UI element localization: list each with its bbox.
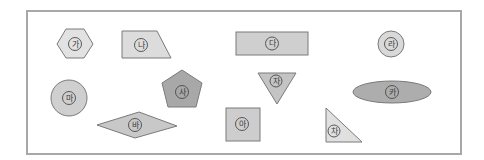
- shape-hexagon-ga: 가: [57, 29, 93, 58]
- shape-label: 마: [66, 94, 74, 103]
- shape-ellipse-ka: 카: [353, 81, 431, 103]
- shape-trapezoid-na: 나: [122, 31, 171, 58]
- shape-inverted-triangle-ja: 자: [258, 73, 296, 104]
- shape-label: 나: [138, 41, 146, 50]
- shape-label: 자: [273, 77, 281, 86]
- shape-label: 차: [331, 127, 339, 136]
- shape-label: 카: [389, 88, 397, 97]
- shape-label: 가: [72, 40, 80, 49]
- shapes-canvas: 가 나 다 라 마 바 사 아: [0, 0, 484, 160]
- shape-label: 라: [388, 40, 396, 49]
- shape-square-a: 아: [226, 108, 260, 141]
- shape-rectangle-da: 다: [236, 32, 308, 55]
- shape-label: 바: [132, 120, 140, 130]
- shape-label: 아: [239, 119, 247, 129]
- shape-pentagon-sa: 사: [162, 70, 202, 107]
- shape-circle-ra: 라: [378, 31, 404, 57]
- trapezoid-shape: [122, 31, 171, 58]
- shape-right-triangle-cha: 차: [326, 108, 362, 142]
- shape-label: 다: [269, 39, 277, 48]
- shape-label: 사: [179, 88, 187, 97]
- shape-circle-ma: 마: [51, 80, 87, 116]
- shape-rhombus-ba: 바: [97, 112, 177, 138]
